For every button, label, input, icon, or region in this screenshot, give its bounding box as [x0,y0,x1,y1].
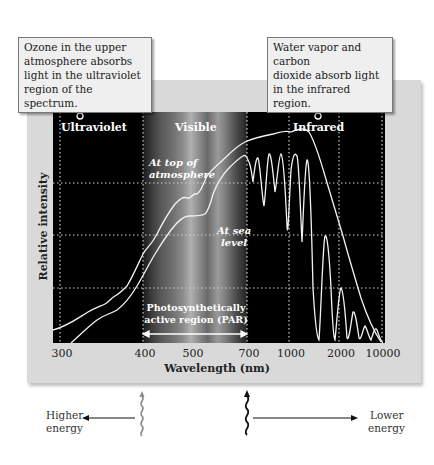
label-lower-energy-line1: Lower [368,409,405,422]
label-par: Photosynthetically active region (PAR) [141,302,251,326]
label-at-sea-level-line2: level [217,237,251,249]
callout-water-line3: in the infrared region. [273,82,387,110]
callout-ozone-line3: light in the ultraviolet [24,68,146,82]
callout-ozone-line4: region of the spectrum. [24,82,146,110]
x-tick-10000: 10000 [366,347,401,360]
x-tick-2000: 2000 [327,347,355,360]
label-at-sea-level-line1: At sea [217,225,251,237]
label-top-of-atmosphere-line1: At top of [149,157,215,169]
callout-water-line2: dioxide absorb light [273,68,387,82]
x-tick-500: 500 [183,347,204,360]
callout-water-co2: Water vapor and carbon dioxide absorb li… [267,37,393,113]
x-tick-700: 700 [239,347,260,360]
x-tick-300: 300 [52,347,73,360]
y-axis-label: Relative intensity [37,172,50,282]
label-top-of-atmosphere-line2: atmosphere [149,169,215,181]
short-wave-icon [141,396,143,436]
label-lower-energy: Lower energy [368,409,405,435]
label-lower-energy-line2: energy [368,422,405,435]
callout-ozone-line2: atmosphere absorbs [24,54,146,68]
label-par-line1: Photosynthetically [141,302,251,314]
label-higher-energy-line2: energy [46,422,83,435]
label-higher-energy: Higher energy [46,409,83,435]
plot-area: Ultraviolet Visible Infrared At top of a… [53,112,385,343]
x-tick-1000: 1000 [277,347,305,360]
callout-water-line1: Water vapor and carbon [273,40,387,68]
x-tick-400: 400 [135,347,156,360]
label-top-of-atmosphere: At top of atmosphere [149,157,215,181]
label-at-sea-level: At sea level [217,225,251,249]
x-axis-label: Wavelength (nm) [0,362,434,375]
long-wave-icon [246,396,249,435]
label-higher-energy-line1: Higher [46,409,83,422]
par-range-arrow [143,331,247,337]
callout-ozone-line1: Ozone in the upper [24,40,146,54]
label-par-line2: active region (PAR) [141,314,251,326]
callout-ozone: Ozone in the upper atmosphere absorbs li… [18,37,152,113]
